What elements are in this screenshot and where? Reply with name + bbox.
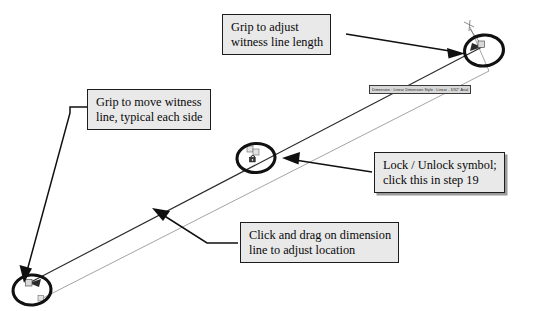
leader-grip-move-witness-line	[27, 107, 88, 271]
callout-line-2: line, typical each side	[96, 110, 203, 125]
rollover-tooltip-text: Dimension : Linear Dimension Style : Lin…	[372, 88, 468, 92]
callout-line-1: Click and drag on dimension	[249, 228, 391, 243]
dimension-rollover-tooltip: Dimension : Linear Dimension Style : Lin…	[369, 85, 471, 94]
leader-lock-unlock-symbol	[295, 160, 372, 172]
leader-grip-adjust-witness-length	[346, 34, 453, 52]
callout-lock-unlock-symbol[interactable]: Lock / Unlock symbol; click this in step…	[374, 152, 505, 193]
callout-click-drag-dimension-line[interactable]: Click and drag on dimension line to adju…	[240, 222, 399, 263]
diagram-canvas: Dimension : Linear Dimension Style : Lin…	[0, 0, 533, 311]
arrowhead-grip-adjust-witness-length	[447, 48, 465, 59]
arrowhead-lock-unlock-symbol	[282, 152, 300, 165]
callout-line-1: Grip to adjust	[231, 20, 323, 35]
callout-line-1: Lock / Unlock symbol;	[383, 158, 497, 173]
leader-click-drag-dimension-line	[163, 215, 238, 243]
callout-line-2: witness line length	[231, 35, 323, 50]
arrowhead-click-drag-dimension-line	[152, 208, 170, 221]
arrowhead-grip-move-witness-line	[20, 265, 33, 283]
callout-grip-move-witness-line[interactable]: Grip to move witness line, typical each …	[87, 89, 211, 130]
callout-line-1: Grip to move witness	[96, 95, 203, 110]
callout-line-2: click this in step 19	[383, 173, 497, 188]
callout-grip-adjust-witness-length[interactable]: Grip to adjust witness line length	[222, 14, 331, 55]
callout-line-2: line to adjust location	[249, 243, 391, 258]
